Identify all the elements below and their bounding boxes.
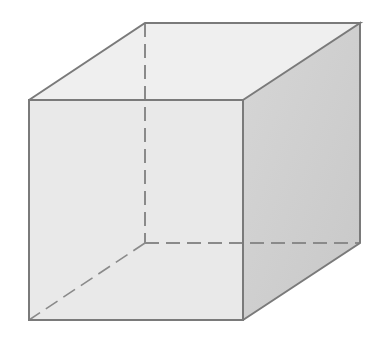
front-face: [29, 100, 243, 320]
cube-diagram: [0, 0, 382, 341]
cube-svg: [0, 0, 382, 341]
